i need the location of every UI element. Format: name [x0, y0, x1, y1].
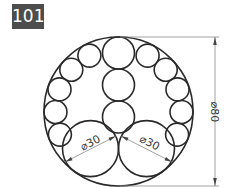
circle-packing-drawing: ⌀80 ⌀30 ⌀30 — [0, 0, 234, 188]
center-circle-bottom — [103, 101, 135, 133]
arrowhead-bottom-icon — [213, 178, 217, 186]
outer-diameter-label: ⌀80 — [208, 102, 221, 123]
arrowhead-icon — [121, 136, 129, 141]
ring-circle — [166, 123, 189, 146]
arrowhead-top-icon — [213, 37, 217, 45]
left-circle-diameter-label: ⌀30 — [78, 132, 102, 153]
ring-circle — [44, 101, 67, 124]
center-circle-top — [103, 37, 135, 69]
ring-circle — [170, 101, 193, 124]
ring-circle — [48, 123, 71, 146]
center-circle-middle — [103, 69, 135, 101]
ring-circle — [48, 78, 71, 101]
ring-circle — [166, 78, 189, 101]
arrowhead-icon — [165, 157, 173, 162]
arrowhead-icon — [65, 157, 73, 162]
arrowhead-icon — [109, 136, 117, 141]
